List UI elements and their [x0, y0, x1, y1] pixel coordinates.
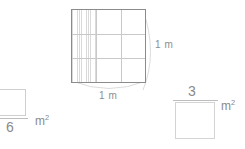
fraction-rule-right: [173, 100, 218, 101]
diagram-canvas: 1 m 1 m 6 m2 3 m2: [0, 0, 245, 149]
shaded-column-region: [72, 10, 96, 82]
grid-line-horizontal-1: [72, 34, 145, 35]
answer-box-left[interactable]: [0, 89, 26, 116]
answer-box-right[interactable]: [175, 102, 215, 139]
unit-left-exponent: 2: [45, 113, 49, 122]
fraction-rule-left: [0, 118, 28, 119]
grid-line-vertical-1: [96, 10, 97, 82]
dimension-label-right: 1 m: [155, 39, 173, 50]
unit-left-base: m: [35, 114, 45, 128]
fraction-denominator-left: 6: [6, 119, 14, 135]
unit-right-exponent: 2: [231, 98, 235, 107]
unit-label-right: m2: [221, 99, 245, 113]
grid-line-vertical-2: [121, 10, 122, 82]
grid-line-horizontal-2: [72, 58, 145, 59]
dimension-label-bottom: 1 m: [99, 90, 117, 101]
unit-square: [71, 9, 146, 83]
unit-right-base: m: [221, 99, 231, 113]
fraction-numerator-right: 3: [188, 83, 196, 99]
